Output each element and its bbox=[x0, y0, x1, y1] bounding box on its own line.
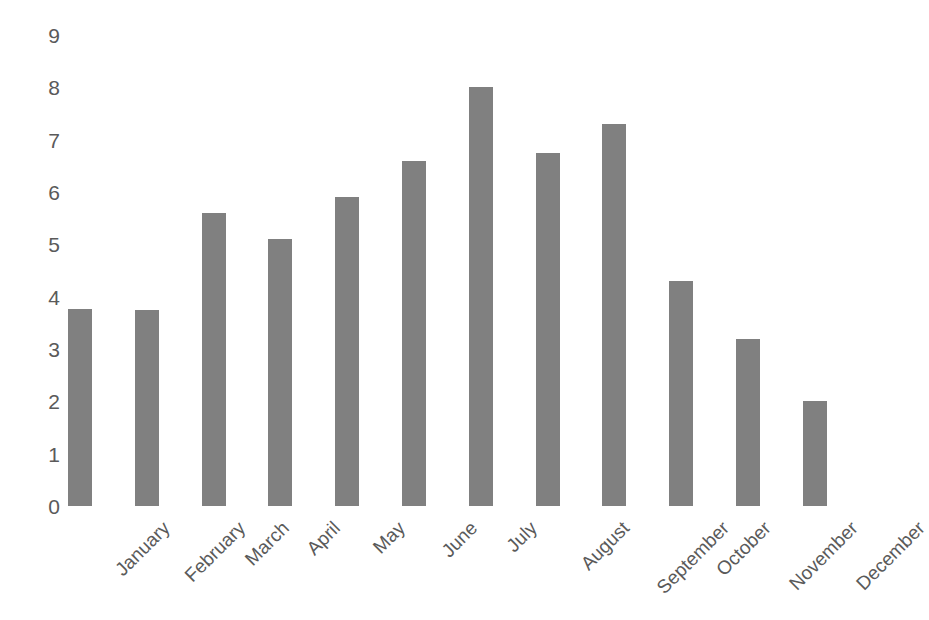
bar bbox=[803, 401, 827, 506]
bar bbox=[202, 213, 226, 506]
bar bbox=[135, 310, 159, 506]
bar bbox=[402, 161, 426, 506]
bar bbox=[68, 309, 92, 506]
bar bbox=[536, 153, 560, 506]
x-axis-tick-label-text: December bbox=[852, 518, 927, 593]
bar bbox=[736, 339, 760, 506]
bar bbox=[268, 239, 292, 506]
bar bbox=[669, 281, 693, 506]
bar bbox=[469, 87, 493, 506]
x-axis-tick-label: December bbox=[852, 518, 927, 593]
bar bbox=[602, 124, 626, 506]
bar bbox=[335, 197, 359, 506]
